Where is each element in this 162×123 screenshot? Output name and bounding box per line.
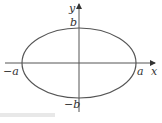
cropped-caption bbox=[0, 113, 55, 117]
left-vertex-label: −a bbox=[3, 65, 19, 78]
bottom-covertex-label: −b bbox=[64, 98, 80, 111]
top-covertex-label: b bbox=[70, 16, 77, 29]
y-axis-label: y bbox=[68, 2, 76, 15]
right-vertex-label: a bbox=[137, 65, 144, 78]
ellipse-diagram: y x b −b a −a bbox=[0, 0, 162, 123]
x-axis-label: x bbox=[151, 65, 158, 78]
